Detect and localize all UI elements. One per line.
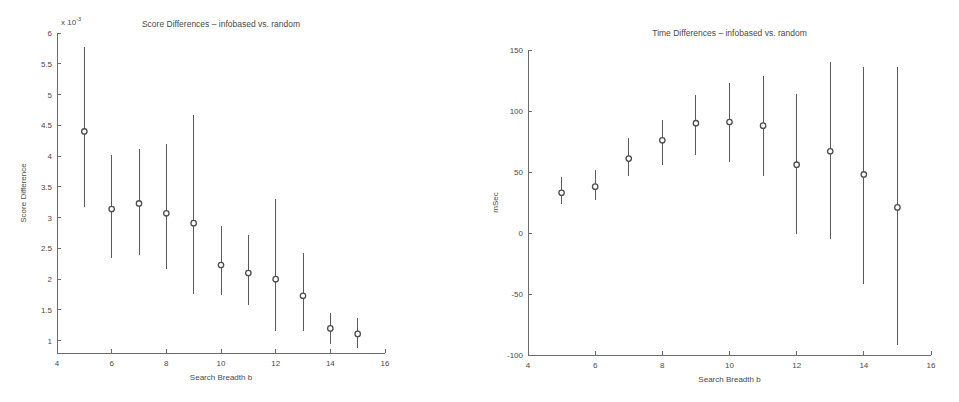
data-point-marker — [109, 206, 114, 211]
x-tick-label: 4 — [526, 361, 531, 370]
data-point-marker — [660, 138, 665, 143]
data-point-marker — [191, 220, 196, 225]
data-point-marker — [82, 129, 87, 134]
data-point-marker — [328, 326, 333, 331]
score-differences-panel: Score Differences – infobased vs. random… — [0, 0, 480, 402]
data-point-group — [191, 115, 196, 293]
y-tick-label: 0 — [519, 229, 524, 238]
data-point-group — [626, 138, 631, 176]
data-point-marker — [136, 201, 141, 206]
data-point-marker — [693, 121, 698, 126]
data-point-marker — [218, 262, 223, 267]
x-tick-label: 14 — [326, 359, 335, 368]
x-tick-label: 16 — [927, 361, 936, 370]
data-point-marker — [895, 205, 900, 210]
data-point-group — [592, 170, 597, 201]
x-tick-label: 6 — [109, 359, 114, 368]
y-tick-label: 150 — [510, 46, 524, 55]
data-point-group — [82, 47, 87, 207]
x-tick-label: 12 — [792, 361, 801, 370]
y-tick-label: 5 — [48, 91, 53, 100]
y-tick-label: 2.5 — [41, 244, 53, 253]
data-point-marker — [355, 331, 360, 336]
data-point-marker — [300, 293, 305, 298]
y-tick-label: 1.5 — [41, 306, 53, 315]
data-point-group — [895, 67, 900, 345]
y-axis-ticks: 11.522.533.544.555.56 — [41, 29, 61, 346]
chart-title: Time Differences – infobased vs. random — [652, 28, 807, 38]
data-point-group — [136, 149, 141, 254]
time-differences-plot: Time Differences – infobased vs. random-… — [480, 0, 959, 402]
y-axis-exponent: x 10-3 — [61, 16, 81, 27]
x-tick-label: 4 — [55, 359, 60, 368]
x-tick-label: 12 — [271, 359, 280, 368]
data-point-marker — [273, 276, 278, 281]
y-axis-label: mSec — [491, 192, 500, 212]
data-point-group — [794, 94, 799, 234]
data-series — [82, 47, 361, 348]
data-point-group — [273, 199, 278, 331]
y-tick-label: 100 — [510, 107, 524, 116]
data-point-group — [727, 83, 732, 162]
x-tick-label: 10 — [725, 361, 734, 370]
data-point-marker — [164, 211, 169, 216]
data-point-group — [164, 144, 169, 269]
x-tick-label: 6 — [593, 361, 598, 370]
data-point-group — [300, 253, 305, 331]
data-point-group — [760, 76, 765, 176]
y-tick-label: 6 — [48, 29, 53, 38]
data-point-group — [246, 235, 251, 305]
axis-frame — [57, 33, 385, 353]
data-point-group — [660, 120, 665, 165]
y-axis-label: Score Difference — [19, 163, 28, 223]
y-tick-label: -100 — [507, 351, 524, 360]
data-point-marker — [626, 156, 631, 161]
figure-container: Score Differences – infobased vs. random… — [0, 0, 959, 402]
x-axis-label: Search Breadth b — [698, 375, 761, 384]
data-point-marker — [794, 162, 799, 167]
data-point-marker — [828, 149, 833, 154]
data-point-marker — [861, 172, 866, 177]
y-tick-label: 2 — [48, 275, 53, 284]
data-point-marker — [760, 123, 765, 128]
data-point-group — [828, 62, 833, 239]
y-tick-label: 5.5 — [41, 60, 53, 69]
x-tick-label: 8 — [660, 361, 665, 370]
data-point-group — [218, 226, 223, 294]
data-point-group — [693, 95, 698, 155]
x-tick-label: 16 — [381, 359, 390, 368]
y-axis-exponent-text: x 10-3 — [61, 16, 81, 27]
y-tick-label: 3 — [48, 214, 53, 223]
x-tick-label: 10 — [217, 359, 226, 368]
data-point-group — [328, 313, 333, 344]
y-tick-label: 1 — [48, 337, 53, 346]
data-point-marker — [592, 184, 597, 189]
y-tick-label: 4 — [48, 152, 53, 161]
data-point-group — [559, 177, 564, 204]
x-axis-label: Search Breadth b — [190, 373, 253, 382]
x-axis-ticks: 46810121416 — [55, 349, 390, 368]
data-point-group — [355, 318, 360, 348]
x-axis-ticks: 46810121416 — [526, 351, 936, 370]
y-axis-exponent-power: -3 — [76, 16, 81, 22]
data-point-marker — [727, 119, 732, 124]
data-point-group — [109, 155, 114, 258]
y-tick-label: 50 — [514, 168, 523, 177]
data-point-marker — [246, 270, 251, 275]
x-tick-label: 8 — [164, 359, 169, 368]
data-point-group — [861, 67, 866, 284]
data-series — [559, 62, 900, 345]
y-tick-label: 3.5 — [41, 183, 53, 192]
time-differences-panel: Time Differences – infobased vs. random-… — [480, 0, 959, 402]
x-tick-label: 14 — [859, 361, 868, 370]
score-differences-plot: Score Differences – infobased vs. random… — [0, 0, 480, 402]
data-point-marker — [559, 190, 564, 195]
y-tick-label: -50 — [511, 290, 523, 299]
y-tick-label: 4.5 — [41, 121, 53, 130]
chart-title: Score Differences – infobased vs. random — [142, 19, 300, 29]
